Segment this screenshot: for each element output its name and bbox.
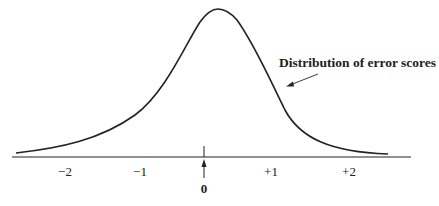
arrow-left-icon xyxy=(286,82,294,87)
error-distribution-figure: −2 −1 +1 +2 0 Distribution of error scor… xyxy=(0,0,439,206)
distribution-plot: −2 −1 +1 +2 0 Distribution of error scor… xyxy=(0,0,439,206)
zero-label: 0 xyxy=(201,181,208,196)
tick-label-pos2: +2 xyxy=(342,164,356,179)
tick-label-pos1: +1 xyxy=(264,164,278,179)
annotation-label: Distribution of error scores xyxy=(279,55,436,70)
annotation-arrow-shaft xyxy=(290,74,318,85)
distribution-curve xyxy=(16,9,388,154)
tick-label-neg2: −2 xyxy=(58,164,72,179)
arrow-up-icon xyxy=(202,159,207,167)
tick-label-neg1: −1 xyxy=(133,164,147,179)
